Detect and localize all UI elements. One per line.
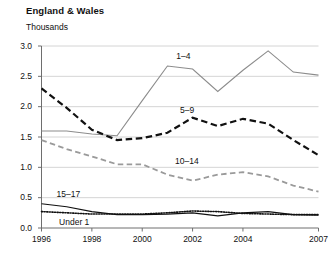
series-label-5-9: 5–9 bbox=[180, 105, 194, 115]
y-tick-label: 2.0 bbox=[6, 101, 32, 111]
series-label-under-1: Under 1 bbox=[59, 217, 89, 227]
y-tick-label: 1.0 bbox=[6, 162, 32, 172]
y-tick-label: 0.5 bbox=[6, 192, 32, 202]
x-tick-label: 2007 bbox=[299, 234, 332, 244]
x-tick-label: 2002 bbox=[173, 234, 213, 244]
x-tick-label: 1996 bbox=[22, 234, 62, 244]
series-label-15-17: 15–17 bbox=[57, 189, 81, 199]
y-tick-label: 2.5 bbox=[6, 71, 32, 81]
x-tick-label: 1998 bbox=[72, 234, 112, 244]
y-tick-marks bbox=[38, 46, 42, 228]
y-tick-label: 0.0 bbox=[6, 223, 32, 233]
plot-area: 0.00.51.01.52.02.53.0 199619982000200220… bbox=[0, 0, 332, 257]
data-series-group bbox=[42, 51, 319, 216]
series-line-10-14 bbox=[42, 140, 319, 192]
series-line-5-9 bbox=[42, 88, 319, 155]
x-tick-label: 2000 bbox=[122, 234, 162, 244]
y-tick-label: 1.5 bbox=[6, 132, 32, 142]
series-label-1-4: 1–4 bbox=[176, 51, 190, 61]
x-tick-label: 2004 bbox=[223, 234, 263, 244]
chart-canvas bbox=[0, 0, 332, 257]
x-tick-marks bbox=[42, 228, 319, 232]
chart-container: England & Wales Thousands 0.00.51.01.52.… bbox=[0, 0, 332, 257]
series-label-10-14: 10–14 bbox=[175, 156, 199, 166]
y-tick-label: 3.0 bbox=[6, 41, 32, 51]
